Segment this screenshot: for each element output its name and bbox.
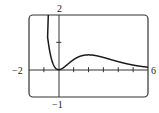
x-min-label: −2 [12, 66, 23, 76]
y-max-label: 2 [57, 4, 62, 14]
function-curve [48, 15, 148, 70]
viewing-window-frame [29, 15, 148, 97]
x-max-label: 6 [151, 66, 156, 76]
axis-ticks [44, 42, 133, 72]
y-min-label: −1 [52, 100, 63, 110]
chart-plot [0, 0, 159, 113]
